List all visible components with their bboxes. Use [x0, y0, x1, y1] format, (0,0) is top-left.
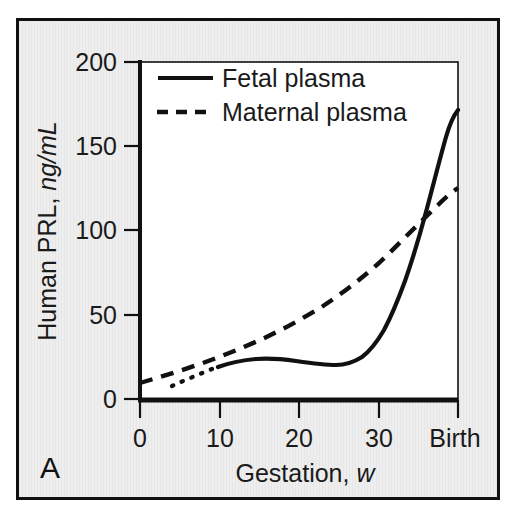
y-tick-label-0: 0 [103, 385, 117, 413]
y-axis: 200 150 100 50 0 Human PRL, ng/mL [33, 48, 140, 413]
x-tick-label-20: 20 [285, 424, 313, 452]
x-axis-title-unit: w [356, 459, 376, 487]
y-tick-label-200: 200 [75, 48, 117, 76]
x-tick-label-0: 0 [133, 424, 147, 452]
x-axis: 0 10 20 30 Birth Gestation, w [133, 400, 481, 487]
y-tick-label-100: 100 [75, 216, 117, 244]
x-tick-label-30: 30 [365, 424, 393, 452]
prl-gestation-line-chart: 200 150 100 50 0 Human PRL, ng/mL 0 10 2… [0, 0, 517, 517]
x-tick-label-10: 10 [206, 424, 234, 452]
y-axis-title-main: Human PRL, [33, 191, 61, 341]
y-tick-label-150: 150 [75, 132, 117, 160]
y-axis-title-unit: ng/mL [33, 121, 61, 190]
x-axis-title: Gestation, w [236, 459, 377, 487]
x-axis-title-main: Gestation, [236, 459, 357, 487]
legend-label-maternal-plasma: Maternal plasma [222, 98, 407, 126]
y-axis-title: Human PRL, ng/mL [33, 121, 61, 341]
panel-label-a: A [40, 451, 60, 484]
figure-root: 200 150 100 50 0 Human PRL, ng/mL 0 10 2… [0, 0, 517, 517]
y-tick-label-50: 50 [89, 301, 117, 329]
x-tick-label-birth: Birth [429, 424, 480, 452]
legend-label-fetal-plasma: Fetal plasma [222, 64, 365, 92]
